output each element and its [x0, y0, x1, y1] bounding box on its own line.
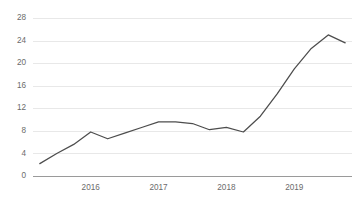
y-axis-tick-label: 28: [17, 13, 27, 22]
y-axis-tick-labels: 0481216202428: [17, 13, 27, 180]
y-axis-tick-label: 8: [21, 126, 26, 135]
x-axis-tick-label: 2017: [149, 183, 168, 192]
x-axis-tick-label: 2019: [285, 183, 304, 192]
gridline-group: [33, 19, 352, 154]
y-axis-tick-label: 24: [17, 36, 27, 45]
y-axis-tick-label: 4: [21, 149, 26, 158]
data-series-line: [40, 35, 345, 164]
chart-canvas: 0481216202428 2016201720182019: [0, 0, 360, 201]
x-axis-tick-labels: 2016201720182019: [82, 183, 304, 192]
x-axis-tick-label: 2016: [82, 183, 101, 192]
y-axis-tick-label: 16: [17, 81, 27, 90]
line-chart: 0481216202428 2016201720182019: [0, 0, 360, 201]
series-group: [40, 35, 345, 164]
x-axis-tick-label: 2018: [217, 183, 236, 192]
y-axis-tick-label: 12: [17, 103, 27, 112]
y-axis-tick-label: 20: [17, 58, 27, 67]
y-axis-tick-label: 0: [21, 171, 26, 180]
